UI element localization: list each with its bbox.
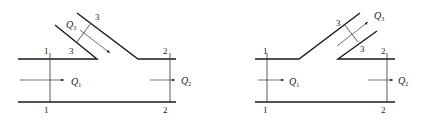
right-top-wall-upstream <box>255 13 360 59</box>
right-section-3-top-label: 3 <box>336 18 341 28</box>
right-q2-label: Q2 <box>398 75 408 87</box>
left-section-1-bottom-label: 1 <box>44 105 49 115</box>
left-top-wall-downstream <box>77 13 176 59</box>
left-top-wall-upstream <box>18 25 97 59</box>
right-q1-label: Q1 <box>289 76 299 88</box>
left-q2-label: Q2 <box>181 75 191 87</box>
right-section-3-bottom-label: 3 <box>360 44 365 54</box>
right-q3-arrow-icon <box>337 22 368 46</box>
left-section-3-bottom-label: 3 <box>69 46 74 56</box>
right-top-wall-downstream <box>338 31 395 59</box>
right-section-1-top-label: 1 <box>263 46 268 56</box>
left-section-2-top-label: 2 <box>163 46 168 56</box>
right-section-2-top-label: 2 <box>381 46 386 56</box>
left-diagram-converging-tee: 1 1 2 2 3 3 Q1 Q2 Q3 <box>18 12 191 115</box>
right-q3-label: Q3 <box>374 10 384 22</box>
left-section-3-line <box>77 23 91 42</box>
left-q1-label: Q1 <box>71 76 81 88</box>
left-section-1-top-label: 1 <box>44 46 49 56</box>
left-section-3-top-label: 3 <box>95 12 100 22</box>
right-section-1-bottom-label: 1 <box>263 105 268 115</box>
tee-junction-diagrams: 1 1 2 2 3 3 Q1 Q2 Q3 1 1 2 2 3 3 Q1 Q2 Q… <box>0 0 423 124</box>
right-diagram-diverging-tee: 1 1 2 2 3 3 Q1 Q2 Q3 <box>255 10 408 115</box>
left-section-2-bottom-label: 2 <box>163 105 168 115</box>
right-section-2-bottom-label: 2 <box>381 105 386 115</box>
left-q3-label: Q3 <box>66 19 76 31</box>
